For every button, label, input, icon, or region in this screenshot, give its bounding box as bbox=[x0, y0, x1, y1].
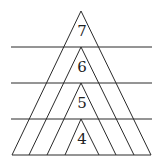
label-5: 5 bbox=[77, 94, 87, 112]
label-6: 6 bbox=[77, 58, 87, 76]
nested-triangle-diagram: 7 6 5 4 bbox=[0, 0, 164, 163]
label-4: 4 bbox=[77, 130, 87, 148]
label-7: 7 bbox=[77, 22, 87, 40]
